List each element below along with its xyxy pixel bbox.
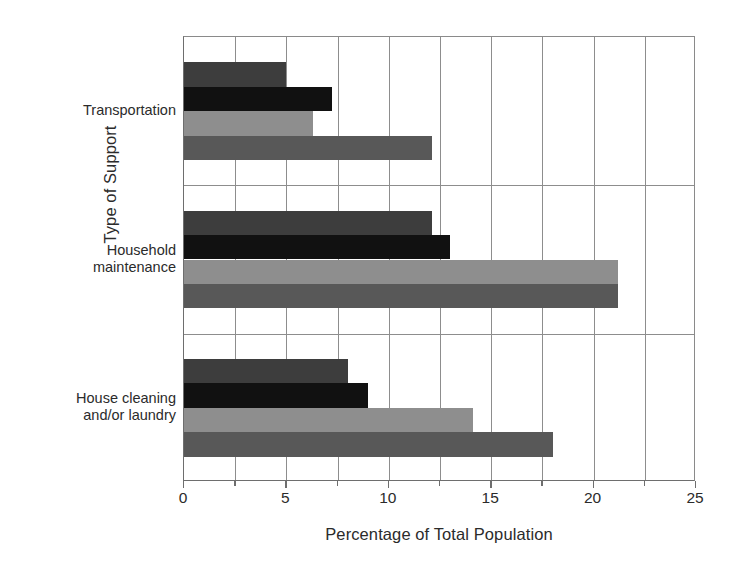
x-gridline (491, 37, 492, 480)
bar (184, 408, 473, 432)
bar (184, 62, 286, 86)
category-label-line: Household (36, 242, 176, 259)
bar (184, 136, 432, 160)
bar (184, 260, 618, 284)
x-axis-tick-labels: 0510152025 (0, 489, 734, 515)
category-label: Transportation (36, 102, 176, 119)
x-minor-tick-mark (337, 481, 338, 486)
bar (184, 235, 450, 259)
x-gridline (594, 37, 595, 480)
x-minor-tick-mark (644, 481, 645, 486)
x-tick-mark (593, 481, 594, 488)
category-separator (184, 334, 694, 335)
bar (184, 383, 368, 407)
x-tick-mark (183, 481, 184, 488)
plot-area (183, 36, 695, 481)
x-gridline (645, 37, 646, 480)
x-tick-label: 10 (358, 489, 418, 507)
bar (184, 211, 432, 235)
x-minor-tick-mark (439, 481, 440, 486)
bar (184, 359, 348, 383)
category-separator (184, 185, 694, 186)
bar (184, 432, 553, 456)
bar (184, 284, 618, 308)
x-tick-label: 15 (460, 489, 520, 507)
category-label-line: House cleaning (36, 390, 176, 407)
bar-chart: Type of Support TransportationHouseholdm… (0, 0, 734, 579)
category-label-line: maintenance (36, 259, 176, 276)
x-tick-mark (695, 481, 696, 488)
category-label-line: Transportation (36, 102, 176, 119)
x-axis-title: Percentage of Total Population (183, 525, 695, 544)
bar (184, 87, 332, 111)
x-tick-label: 5 (255, 489, 315, 507)
x-minor-tick-mark (234, 481, 235, 486)
x-tick-label: 25 (665, 489, 725, 507)
x-tick-label: 20 (563, 489, 623, 507)
bar (184, 111, 313, 135)
category-label: House cleaningand/or laundry (36, 390, 176, 424)
category-label: Householdmaintenance (36, 242, 176, 276)
x-minor-tick-mark (541, 481, 542, 486)
x-tick-label: 0 (153, 489, 213, 507)
x-tick-mark (285, 481, 286, 488)
x-tick-mark (490, 481, 491, 488)
category-label-line: and/or laundry (36, 407, 176, 424)
x-tick-mark (388, 481, 389, 488)
x-gridline (542, 37, 543, 480)
